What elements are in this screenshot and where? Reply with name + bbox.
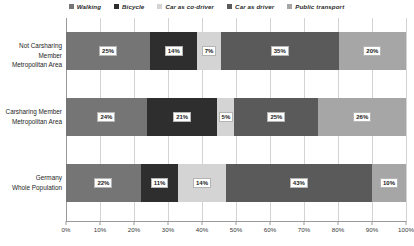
bar-segment-value-label: 25% xyxy=(99,46,117,56)
x-axis-tick-label: 90% xyxy=(366,226,378,233)
bar-segment-value-label: 20% xyxy=(363,46,381,56)
x-axis-tick-label: 30% xyxy=(162,226,174,233)
bar-segment-public-transport: 10% xyxy=(372,164,406,202)
x-axis-tick-label: 70% xyxy=(298,226,310,233)
bar-segment-walking: 24% xyxy=(66,98,147,136)
x-axis-tick-label: 50% xyxy=(230,226,242,233)
legend-swatch-car-as-driver-icon xyxy=(227,4,232,9)
bar-row: 24%21%5%25%26% xyxy=(66,98,406,136)
bar-segment-walking: 22% xyxy=(66,164,141,202)
bar-rows: 25%14%7%35%20%24%21%5%25%26%22%11%14%43%… xyxy=(66,18,406,222)
bar-segment-value-label: 26% xyxy=(353,112,371,122)
x-axis-tickmark xyxy=(236,221,237,225)
bar-row: 25%14%7%35%20% xyxy=(66,32,406,70)
legend-item-car-as-co-driver: Car as co-driver xyxy=(157,3,214,10)
x-axis-tickmark xyxy=(372,221,373,225)
x-axis-tickmark xyxy=(304,221,305,225)
bar-segment-value-label: 43% xyxy=(290,178,308,188)
bar-segment-value-label: 35% xyxy=(271,46,289,56)
x-axis-tickmark xyxy=(270,221,271,225)
bar-segment-value-label: 21% xyxy=(173,112,191,122)
legend-swatch-bicycle-icon xyxy=(114,4,119,9)
y-axis-label: Not Carsharing MemberMetropolitan Area xyxy=(0,41,62,70)
gridline xyxy=(406,18,407,222)
bar-segment-value-label: 14% xyxy=(165,46,183,56)
y-axis-label-line: Metropolitan Area xyxy=(0,117,62,127)
bar-segment-bicycle: 14% xyxy=(150,32,197,70)
bar-segment-value-label: 7% xyxy=(202,46,217,56)
legend-label: Public transport xyxy=(295,3,344,10)
y-axis-label-line: Carsharing Member xyxy=(0,107,62,117)
legend-swatch-walking-icon xyxy=(69,4,74,9)
y-axis-label: GermanyWhole Population xyxy=(0,173,62,192)
plot-area: 25%14%7%35%20%24%21%5%25%26%22%11%14%43%… xyxy=(66,18,406,222)
bar-segment-bicycle: 11% xyxy=(141,164,178,202)
x-axis-tickmark xyxy=(406,221,407,225)
bar-segment-value-label: 22% xyxy=(94,178,112,188)
y-axis-label-line: Not Carsharing Member xyxy=(0,41,62,60)
bar-segment-car-as-driver: 35% xyxy=(221,32,339,70)
legend-item-car-as-driver: Car as driver xyxy=(227,3,274,10)
bar-segment-public-transport: 26% xyxy=(318,98,406,136)
x-axis-tickmark xyxy=(202,221,203,225)
bar-segment-car-as-driver: 43% xyxy=(226,164,372,202)
x-axis-tick-label: 40% xyxy=(196,226,208,233)
x-axis-tick-label: 100% xyxy=(398,226,414,233)
legend-item-public-transport: Public transport xyxy=(287,3,344,10)
legend-item-bicycle: Bicycle xyxy=(114,3,144,10)
bar-segment-bicycle: 21% xyxy=(147,98,218,136)
x-axis-tick-label: 0% xyxy=(62,226,71,233)
x-axis-tick-label: 20% xyxy=(128,226,140,233)
x-axis-tickmark xyxy=(134,221,135,225)
y-axis-label-line: Germany xyxy=(0,173,62,183)
x-axis-tickmark xyxy=(338,221,339,225)
y-axis-label: Carsharing MemberMetropolitan Area xyxy=(0,107,62,126)
bar-segment-value-label: 25% xyxy=(267,112,285,122)
bar-segment-value-label: 5% xyxy=(219,112,234,122)
bar-segment-car-as-co-driver: 14% xyxy=(178,164,226,202)
bar-segment-value-label: 14% xyxy=(193,178,211,188)
bar-segment-value-label: 10% xyxy=(380,178,398,188)
bar-segment-walking: 25% xyxy=(66,32,150,70)
bar-segment-car-as-co-driver: 5% xyxy=(217,98,234,136)
x-axis-tickmark xyxy=(100,221,101,225)
bar-segment-car-as-co-driver: 7% xyxy=(197,32,221,70)
y-axis-label-line: Metropolitan Area xyxy=(0,60,62,70)
legend-label: Walking xyxy=(77,3,101,10)
legend-label: Car as driver xyxy=(235,3,274,10)
x-axis-tick-labels: 0%10%20%30%40%50%60%70%80%90%100% xyxy=(66,226,406,240)
x-axis-tick-label: 10% xyxy=(94,226,106,233)
legend-item-walking: Walking xyxy=(69,3,101,10)
bar-segment-value-label: 11% xyxy=(151,178,169,188)
bar-segment-public-transport: 20% xyxy=(339,32,406,70)
y-axis-category-labels: Not Carsharing MemberMetropolitan AreaCa… xyxy=(0,18,62,222)
bar-segment-value-label: 24% xyxy=(97,112,115,122)
legend-label: Car as co-driver xyxy=(165,3,214,10)
legend-swatch-public-transport-icon xyxy=(287,4,292,9)
bar-segment-car-as-driver: 25% xyxy=(234,98,318,136)
chart-legend: WalkingBicycleCar as co-driverCar as dri… xyxy=(0,3,413,10)
y-axis-label-line: Whole Population xyxy=(0,183,62,193)
x-axis-tick-label: 80% xyxy=(332,226,344,233)
legend-swatch-car-as-co-driver-icon xyxy=(157,4,162,9)
bar-row: 22%11%14%43%10% xyxy=(66,164,406,202)
legend-label: Bicycle xyxy=(122,3,144,10)
x-axis-tickmark xyxy=(168,221,169,225)
x-axis-tickmark xyxy=(66,221,67,225)
x-axis-tick-label: 60% xyxy=(264,226,276,233)
